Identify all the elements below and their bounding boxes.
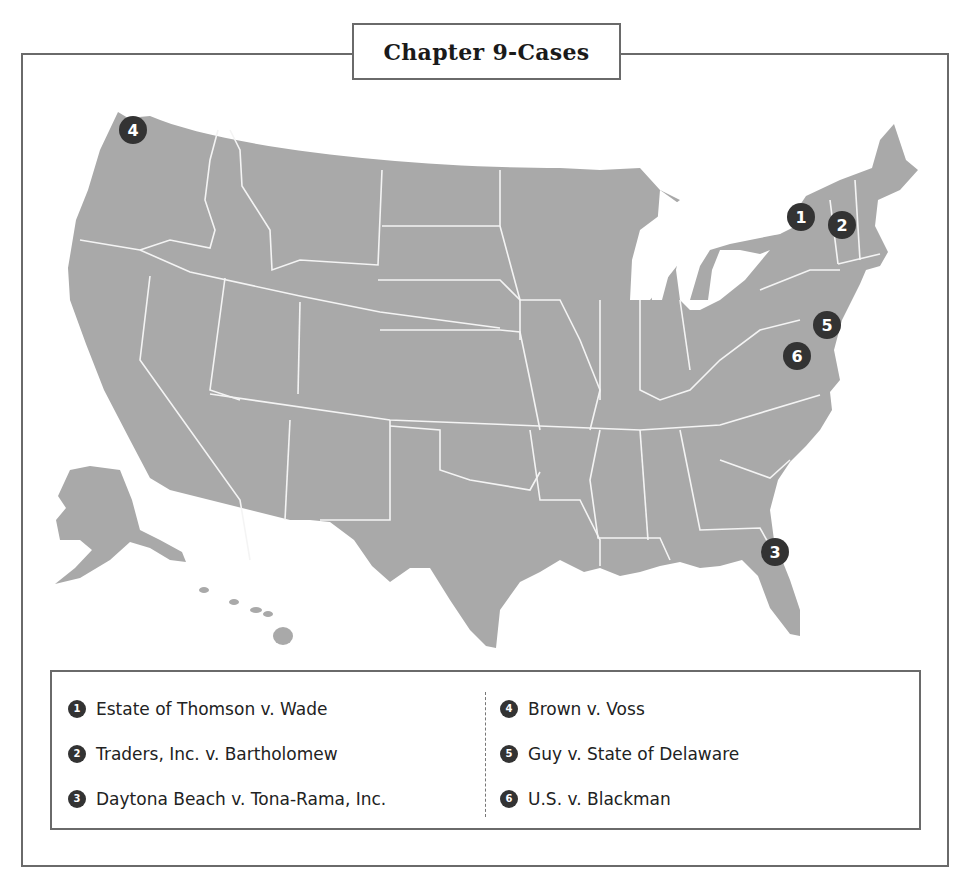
legend-label: Brown v. Voss [528,699,645,719]
legend-label: Daytona Beach v. Tona-Rama, Inc. [96,789,386,809]
legend-label: U.S. v. Blackman [528,789,671,809]
legend-column-right: 4 Brown v. Voss 5 Guy v. State of Delawa… [500,686,739,821]
number-badge-icon: 3 [68,790,86,808]
marker-4[interactable]: 4 [119,116,147,144]
legend-item: 5 Guy v. State of Delaware [500,731,739,776]
number-badge-icon: 6 [500,790,518,808]
marker-1[interactable]: 1 [787,203,815,231]
legend: 1 Estate of Thomson v. Wade 2 Traders, I… [50,670,921,830]
legend-item: 2 Traders, Inc. v. Bartholomew [68,731,386,776]
contiguous-us [68,112,918,648]
marker-3[interactable]: 3 [761,538,789,566]
number-badge-icon: 5 [500,745,518,763]
legend-label: Estate of Thomson v. Wade [96,699,328,719]
legend-divider [485,692,486,817]
legend-item: 3 Daytona Beach v. Tona-Rama, Inc. [68,776,386,821]
legend-item: 6 U.S. v. Blackman [500,776,739,821]
legend-item: 4 Brown v. Voss [500,686,739,731]
marker-5[interactable]: 5 [813,311,841,339]
number-badge-icon: 2 [68,745,86,763]
legend-label: Guy v. State of Delaware [528,744,739,764]
marker-2[interactable]: 2 [828,211,856,239]
marker-6[interactable]: 6 [783,342,811,370]
legend-column-left: 1 Estate of Thomson v. Wade 2 Traders, I… [68,686,386,821]
hawaii [199,587,293,645]
legend-item: 1 Estate of Thomson v. Wade [68,686,386,731]
number-badge-icon: 4 [500,700,518,718]
legend-label: Traders, Inc. v. Bartholomew [96,744,338,764]
number-badge-icon: 1 [68,700,86,718]
